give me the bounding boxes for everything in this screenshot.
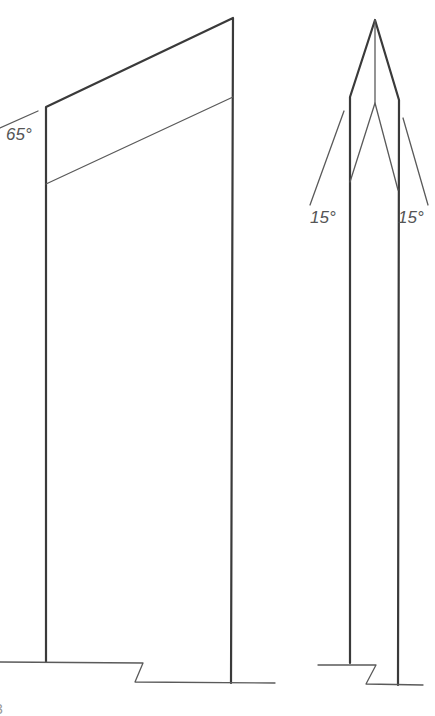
right-ground-line	[318, 665, 423, 685]
left-elevation-view: 65°	[0, 18, 275, 683]
angle-label-65: 65°	[6, 125, 32, 144]
angle-leader-15-left	[310, 111, 344, 205]
right-elevation-view: 15° 15°	[310, 20, 428, 685]
left-panel-top-slope	[46, 18, 233, 683]
left-ground-line	[0, 662, 275, 683]
right-panel-outline	[350, 20, 399, 685]
left-panel-inner-slope	[46, 97, 233, 184]
angle-leader-15-right	[403, 118, 428, 205]
technical-drawing: 65° 15° 15° 3	[0, 0, 435, 716]
angle-label-15-left: 15°	[310, 208, 336, 227]
corner-fragment-text: 3	[0, 701, 3, 716]
angle-label-15-right: 15°	[398, 208, 424, 227]
right-panel-inner-v	[350, 103, 398, 190]
